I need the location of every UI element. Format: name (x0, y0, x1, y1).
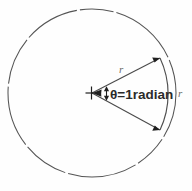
arc-radius-label: r (178, 87, 183, 99)
angle-label: θ=1radian (110, 87, 173, 102)
diagram-canvas: θ=1radian r r (0, 0, 192, 191)
radian-diagram: θ=1radian r r (0, 0, 192, 191)
upper-radius-label: r (119, 63, 124, 75)
center-point-marker (86, 87, 99, 100)
angle-measure-arrow (104, 86, 109, 101)
